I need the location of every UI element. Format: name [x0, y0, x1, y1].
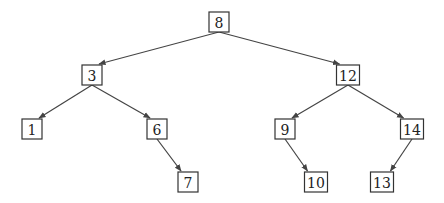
node-label: 8	[215, 15, 224, 31]
tree-node-7: 7	[178, 172, 198, 192]
edge-12-to-9	[292, 85, 348, 118]
binary-tree-diagram: 83121691471013	[0, 0, 444, 203]
node-label: 9	[281, 122, 290, 138]
edge-12-to-14	[348, 85, 404, 118]
node-label: 6	[153, 122, 162, 138]
node-label: 13	[373, 175, 391, 191]
edge-3-to-1	[39, 85, 92, 118]
edge-14-to-13	[391, 139, 413, 171]
node-label: 12	[339, 68, 357, 84]
tree-node-1: 1	[22, 119, 42, 139]
nodes: 83121691471013	[22, 12, 424, 192]
edge-3-to-6	[92, 85, 150, 118]
edges	[39, 32, 412, 171]
tree-node-14: 14	[401, 119, 424, 139]
tree-node-9: 9	[275, 119, 295, 139]
tree-node-10: 10	[305, 172, 328, 192]
tree-node-3: 3	[82, 65, 102, 85]
node-label: 14	[403, 122, 421, 138]
tree-node-13: 13	[371, 172, 394, 192]
edge-9-to-10	[285, 139, 308, 171]
edge-6-to-7	[157, 139, 181, 171]
tree-node-6: 6	[147, 119, 167, 139]
edge-8-to-3	[99, 32, 219, 64]
node-label: 3	[88, 68, 97, 84]
tree-node-8: 8	[209, 12, 229, 32]
node-label: 1	[28, 122, 37, 138]
edge-8-to-12	[219, 32, 340, 64]
tree-node-12: 12	[337, 65, 360, 85]
node-label: 10	[307, 175, 325, 191]
node-label: 7	[184, 175, 193, 191]
